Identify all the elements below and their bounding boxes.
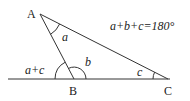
triangle-angle-diagram: A B C a b c a+c a+b+c=180° — [0, 0, 190, 101]
angle-label-exterior: a+c — [25, 63, 45, 77]
diagram-canvas: A B C a b c a+c a+b+c=180° — [0, 0, 190, 101]
angle-label-c: c — [137, 65, 143, 79]
angle-arc-exterior — [55, 62, 65, 79]
angle-label-b: b — [85, 55, 91, 69]
point-label-b: B — [69, 84, 77, 98]
point-label-a: A — [27, 7, 36, 21]
angle-arc-a — [51, 24, 60, 34]
point-label-c: C — [164, 84, 172, 98]
angle-label-a: a — [62, 30, 68, 44]
angle-arc-c — [153, 72, 155, 79]
angle-sum-equation: a+b+c=180° — [110, 19, 175, 33]
